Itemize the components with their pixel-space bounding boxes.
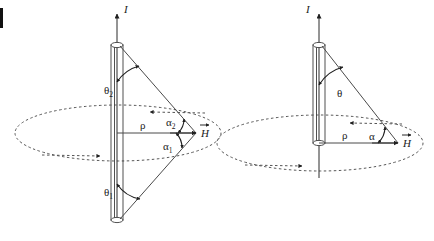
theta-label-right: θ	[337, 87, 342, 99]
H-label-left: H	[200, 127, 210, 139]
alpha2-label: α2	[166, 116, 176, 131]
theta-arc-right	[319, 67, 343, 85]
alpha1-arc	[176, 133, 182, 148]
theta2-arc	[117, 66, 139, 82]
corner-crop-mark	[0, 8, 3, 28]
H-label-right: H	[402, 137, 412, 149]
rho-label-left: ρ	[140, 119, 146, 131]
current-label-left: I	[123, 3, 129, 15]
H-label-group-left: H	[200, 125, 210, 139]
upper-slant-line-left	[120, 46, 196, 133]
field-direction-arrow-bottom-left	[42, 155, 100, 156]
theta1-subscript: 1	[109, 192, 113, 201]
alpha-arc-right	[378, 127, 385, 143]
figure-canvas: I θ2 θ1 α2 α1 ρ H	[0, 0, 434, 241]
alpha-label-right: α	[369, 130, 375, 142]
alpha1-subscript: 1	[169, 146, 173, 155]
theta2-label: θ2	[104, 84, 113, 99]
left-panel: I θ2 θ1 α2 α1 ρ H	[15, 3, 221, 223]
upper-slant-line-right	[322, 46, 398, 143]
H-label-group-right: H	[402, 135, 412, 149]
theta-symbol-right: θ	[337, 87, 342, 99]
alpha-symbol-right: α	[369, 130, 375, 142]
field-direction-arrow-top-right	[350, 123, 402, 124]
rho-label-right: ρ	[342, 129, 348, 141]
alpha1-label: α1	[163, 140, 173, 155]
right-panel: I θ α ρ H	[217, 3, 423, 178]
field-direction-arrow-bottom-right	[245, 165, 302, 166]
alpha2-arc	[178, 119, 184, 133]
lower-slant-line-left	[120, 133, 196, 219]
current-label-right: I	[305, 3, 311, 15]
theta1-label: θ1	[104, 186, 113, 201]
alpha2-subscript: 2	[172, 122, 176, 131]
physics-figure: I θ2 θ1 α2 α1 ρ H	[0, 0, 434, 241]
theta1-arc	[117, 184, 140, 199]
theta2-subscript: 2	[109, 90, 113, 99]
